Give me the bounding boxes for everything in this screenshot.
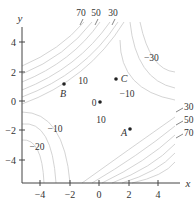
x-tick-labels: −4 −2 0 2 4: [35, 189, 161, 200]
y-tick: −2: [5, 125, 16, 136]
y-tick: 2: [11, 67, 16, 78]
contour-label: −20: [30, 142, 45, 152]
contour-label: 30: [108, 8, 118, 18]
contour-label: −10: [120, 89, 135, 99]
contour-label: 70: [184, 128, 194, 138]
point-c-marker: [114, 77, 118, 81]
x-tick: −4: [35, 189, 46, 200]
contour-label: 50: [91, 8, 101, 18]
y-tick-labels: 4 2 0 −2 −4: [5, 37, 16, 166]
axes: [19, 27, 180, 186]
point-a-label: A: [120, 127, 128, 138]
point-b-label: B: [60, 88, 66, 99]
point-a-marker: [128, 127, 132, 131]
contour-label: 30: [184, 102, 194, 112]
y-axis-label: y: [17, 12, 23, 24]
contour-label: −10: [48, 124, 63, 134]
contour-label: 50: [184, 115, 194, 125]
y-tick: −4: [5, 155, 16, 166]
x-axis-label: x: [185, 177, 191, 189]
x-tick: 2: [127, 189, 132, 200]
point-b-marker: [62, 82, 66, 86]
x-tick: 0: [97, 189, 102, 200]
point-origin-marker: [98, 100, 102, 104]
contour-label: 70: [76, 8, 86, 18]
contour-label: −30: [144, 53, 159, 63]
x-tick: 4: [156, 189, 161, 200]
y-tick: 4: [11, 37, 16, 48]
y-tick: 0: [11, 96, 16, 107]
contour-label: 10: [78, 76, 88, 86]
contour-plot: −4 −2 0 2 4 4 2 0 −2 −4 y x 70 50 30 −30…: [0, 0, 194, 202]
point-c-label: C: [121, 73, 128, 84]
x-tick: −2: [65, 189, 76, 200]
contour-label: 10: [96, 115, 106, 125]
contour-label: 0: [92, 98, 97, 108]
